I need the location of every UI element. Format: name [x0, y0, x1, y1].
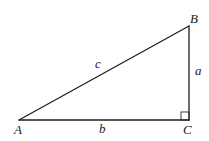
side-c-hypotenuse — [19, 26, 189, 120]
side-label-a: a — [195, 63, 202, 78]
vertex-label-a: A — [13, 122, 22, 137]
side-label-c: c — [95, 56, 101, 71]
right-angle-marker — [181, 112, 189, 120]
right-triangle-diagram: A B C c a b — [0, 0, 209, 141]
vertex-label-b: B — [190, 11, 198, 26]
vertex-label-c: C — [183, 122, 192, 137]
side-label-b: b — [99, 121, 106, 136]
